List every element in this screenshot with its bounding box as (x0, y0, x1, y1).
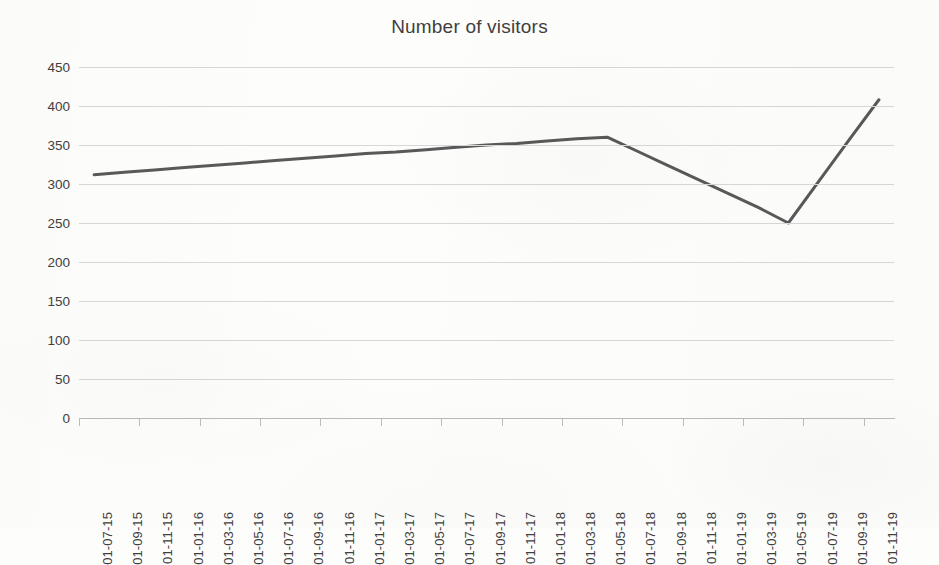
x-tick-mark (200, 419, 201, 426)
x-tick-label: 01-11-18 (704, 512, 719, 564)
y-tick-label: 400 (24, 99, 70, 114)
gridline (79, 106, 894, 107)
x-tick-mark (381, 419, 382, 426)
x-tick-label: 01-07-16 (281, 512, 296, 565)
x-tick-mark (139, 419, 140, 426)
x-tick-label: 01-05-16 (251, 512, 266, 565)
x-axis: 01-07-1501-09-1501-11-1501-01-1601-03-16… (79, 428, 895, 516)
x-tick-label: 01-09-18 (674, 512, 689, 565)
x-axis-ticks (79, 419, 895, 426)
x-tick-mark (803, 419, 804, 426)
chart-title: Number of visitors (0, 16, 939, 38)
x-tick-label: 01-03-16 (221, 512, 236, 565)
x-tick-label: 01-03-18 (583, 512, 598, 565)
y-tick-label: 450 (24, 60, 70, 75)
x-tick-mark (562, 419, 563, 426)
y-tick-label: 200 (24, 255, 70, 270)
x-tick-label: 01-11-15 (160, 512, 175, 564)
x-tick-mark (502, 419, 503, 426)
x-tick-label: 01-01-19 (734, 512, 749, 565)
x-tick-label: 01-11-16 (342, 512, 357, 564)
gridline (79, 184, 894, 185)
x-tick-mark (260, 419, 261, 426)
y-tick-label: 150 (24, 294, 70, 309)
x-tick-mark (441, 419, 442, 426)
x-tick-label: 01-07-19 (825, 512, 840, 565)
x-tick-label: 01-05-19 (794, 512, 809, 565)
gridline (79, 301, 894, 302)
data-series-line (79, 67, 894, 418)
x-tick-mark (79, 419, 80, 426)
x-tick-label: 01-03-17 (402, 512, 417, 565)
y-tick-label: 250 (24, 216, 70, 231)
x-tick-label: 01-09-16 (311, 512, 326, 565)
gridline (79, 340, 894, 341)
x-tick-label: 01-11-17 (523, 512, 538, 564)
gridline (79, 67, 894, 68)
x-tick-label: 01-09-17 (493, 512, 508, 565)
x-tick-label: 01-07-17 (462, 512, 477, 565)
gridline (79, 145, 894, 146)
y-tick-label: 100 (24, 333, 70, 348)
x-tick-label: 01-01-17 (372, 512, 387, 565)
y-tick-label: 0 (24, 411, 70, 426)
x-tick-label: 01-07-15 (100, 512, 115, 565)
plot-area (79, 67, 894, 418)
y-axis: 050100150200250300350400450 (20, 0, 70, 528)
x-tick-label: 01-01-16 (191, 512, 206, 565)
x-tick-label: 01-03-19 (764, 512, 779, 565)
y-tick-label: 350 (24, 138, 70, 153)
gridline (79, 262, 894, 263)
x-tick-label: 01-11-19 (885, 512, 900, 564)
x-tick-mark (622, 419, 623, 426)
x-tick-label: 01-09-15 (130, 512, 145, 565)
y-tick-label: 300 (24, 177, 70, 192)
x-tick-mark (683, 419, 684, 426)
x-tick-mark (864, 419, 865, 426)
x-tick-label: 01-05-18 (613, 512, 628, 565)
x-tick-label: 01-01-18 (553, 512, 568, 565)
x-tick-label: 01-09-19 (855, 512, 870, 565)
x-tick-mark (743, 419, 744, 426)
y-tick-label: 50 (24, 372, 70, 387)
x-tick-label: 01-07-18 (643, 512, 658, 565)
gridline (79, 379, 894, 380)
x-tick-mark (320, 419, 321, 426)
x-tick-label: 01-05-17 (432, 512, 447, 565)
gridline (79, 223, 894, 224)
